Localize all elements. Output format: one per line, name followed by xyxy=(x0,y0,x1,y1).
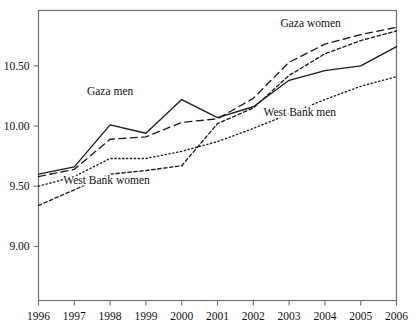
x-tick-label: 1996 xyxy=(27,310,50,322)
chart-container: 10.5010.009.509.001996199719981999200020… xyxy=(0,0,416,332)
series-label-gaza-men: Gaza men xyxy=(87,85,134,97)
x-tick-label: 2005 xyxy=(349,310,372,322)
series-line-gaza-women xyxy=(39,27,397,176)
series-label-west-bank-women: West Bank women xyxy=(63,174,150,186)
x-tick-label: 1999 xyxy=(134,310,157,322)
x-tick-label: 2001 xyxy=(206,310,229,322)
x-tick-label: 2004 xyxy=(313,310,336,322)
x-tick-label: 2002 xyxy=(242,310,265,322)
x-tick-label: 2006 xyxy=(385,310,408,322)
x-tick-label: 2000 xyxy=(170,310,193,322)
series-label-gaza-women: Gaza women xyxy=(280,17,341,29)
y-tick-label: 10.00 xyxy=(4,120,30,132)
series-label-west-bank-men: West Bank men xyxy=(264,106,337,118)
x-tick-label: 1998 xyxy=(99,310,122,322)
line-chart: 10.5010.009.509.001996199719981999200020… xyxy=(0,0,416,332)
y-tick-label: 9.50 xyxy=(9,180,29,192)
y-tick-label: 10.50 xyxy=(4,60,30,72)
y-tick-label: 9.00 xyxy=(9,240,29,252)
x-tick-label: 2003 xyxy=(278,310,301,322)
x-tick-label: 1997 xyxy=(63,310,86,322)
plot-frame xyxy=(39,11,397,301)
